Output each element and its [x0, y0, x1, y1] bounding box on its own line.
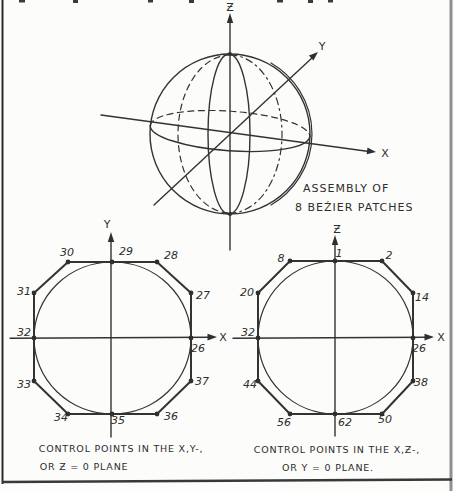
cropped-text-fragments [19, 0, 333, 3]
xz-z-axis-label: Ƶ [333, 223, 341, 236]
sphere-x-axis-arrow [367, 147, 376, 154]
control-point-label: 26 [191, 342, 205, 355]
sphere-assembly-figure: Ƶ Y X ASSEMBLY OF 8 BEŹIER PATCHES [101, 1, 413, 250]
control-point [411, 336, 416, 341]
control-point [333, 412, 338, 417]
control-point [256, 291, 261, 296]
sphere-z-axis-arrow [227, 13, 233, 23]
control-point-label: 44 [243, 378, 257, 391]
control-point [32, 379, 37, 384]
xz-caption-line2: OR Y = 0 PLANE. [282, 462, 374, 473]
xz-x-axis [233, 337, 427, 338]
sphere-caption-line2: 8 BEŹIER PATCHES [295, 201, 413, 214]
scanned-page: Ƶ Y X ASSEMBLY OF 8 BEŹIER PATCHES 29 28… [0, 0, 454, 491]
control-point [32, 336, 37, 341]
control-point-label: 33 [17, 378, 31, 391]
control-point-label: 38 [414, 376, 428, 389]
control-point [380, 259, 385, 264]
sphere-caption-line1: ASSEMBLY OF [303, 182, 389, 195]
xy-x-axis [10, 337, 210, 338]
control-point-label: 32 [241, 326, 255, 339]
control-point [189, 336, 194, 341]
control-point-label: 2 [386, 249, 393, 262]
control-point-label: 34 [54, 411, 68, 424]
control-point-label: 20 [240, 286, 254, 299]
xy-caption-line1: CONTROL POINTS IN THE X,Y-, [39, 443, 204, 454]
control-point [155, 260, 160, 265]
control-point-label: 1 [336, 247, 343, 260]
control-point [256, 336, 261, 341]
sphere-x-axis [101, 115, 369, 152]
xz-x-axis-label: X [437, 331, 445, 344]
control-point [32, 291, 37, 296]
xz-control-points-diagram: 1 2 14 26 38 50 62 56 44 32 20 8 Ƶ X CON… [233, 223, 445, 473]
control-point [155, 412, 160, 417]
control-point-label: 30 [60, 246, 74, 259]
xy-control-points-diagram: 29 28 27 26 37 36 35 34 33 32 31 30 Y X … [10, 218, 227, 472]
control-point [189, 379, 194, 384]
control-point-label: 29 [119, 245, 133, 258]
control-point-label: 8 [278, 252, 285, 265]
control-point-label: 37 [195, 375, 209, 388]
control-point-label: 28 [164, 249, 178, 262]
control-point [66, 260, 71, 265]
figure-canvas: Ƶ Y X ASSEMBLY OF 8 BEŹIER PATCHES 29 28… [0, 0, 454, 491]
control-point-label: 35 [111, 414, 125, 427]
page-border-bottom [2, 480, 452, 483]
control-point-label: 56 [277, 416, 291, 429]
control-point-label: 50 [378, 413, 392, 426]
control-point-label: 14 [415, 291, 429, 304]
xz-z-axis-arrow [332, 235, 338, 245]
sphere-z-axis-label: Ƶ [226, 1, 234, 14]
sphere-x-axis-label: X [381, 147, 389, 160]
xy-y-axis-arrow [108, 232, 114, 242]
xy-caption-line2: OR Ƶ = 0 PLANE [40, 461, 129, 472]
sphere-meridian-back-left [178, 55, 230, 213]
control-point-label: 31 [17, 285, 31, 298]
xz-x-axis-arrow [425, 334, 435, 341]
xy-y-axis-label: Y [103, 218, 111, 231]
sphere-top-pole [228, 52, 232, 56]
control-point-label: 62 [338, 416, 352, 429]
control-point-label: 36 [164, 410, 178, 423]
sphere-bottom-pole [228, 212, 232, 216]
xy-x-axis-label: X [219, 331, 227, 344]
control-point-label: 26 [412, 342, 426, 355]
sphere-y-axis-label: Y [318, 40, 326, 53]
control-point-label: 27 [196, 289, 210, 302]
control-point [288, 259, 293, 264]
control-point [110, 260, 115, 265]
xy-x-axis-arrow [208, 334, 218, 341]
control-point [189, 291, 194, 296]
control-point-label: 32 [17, 326, 31, 339]
xz-caption-line1: CONTROL POINTS IN THE X,Ƶ-, [254, 444, 420, 455]
